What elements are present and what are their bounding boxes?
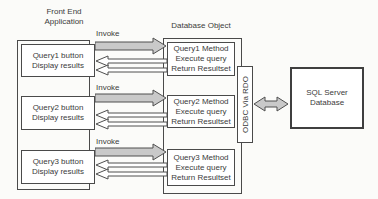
invoke-arrow-icon-2	[95, 89, 167, 107]
bidirectional-arrow-icon	[253, 94, 289, 114]
query1-method-line3: Return Resultset	[171, 64, 231, 74]
query3-button-line1: Query3 button	[33, 157, 84, 167]
query1-method-box: Query1 Method Execute query Return Resul…	[167, 42, 235, 76]
query2-method-line3: Return Resultset	[171, 117, 231, 127]
query2-method-line1: Query2 Method	[173, 97, 228, 107]
query2-method-box: Query2 Method Execute query Return Resul…	[167, 95, 235, 128]
query3-method-line2: Execute query	[175, 163, 226, 173]
odbc-connector-label: ODBC Via RDO	[241, 76, 250, 133]
query1-method-line2: Execute query	[175, 54, 226, 64]
query3-button-line2: Display results	[32, 167, 84, 177]
odbc-connector-box: ODBC Via RDO	[237, 66, 253, 143]
invoke-arrow-icon-1	[95, 37, 167, 55]
front-end-title-line2: Application	[29, 17, 99, 27]
query2-button-box: Query2 button Display results	[21, 96, 95, 130]
sql-server-box: SQL Server Database	[290, 67, 364, 129]
query3-method-line3: Return Resultset	[171, 173, 231, 183]
query1-method-line1: Query1 Method	[173, 44, 228, 54]
sql-server-line1: SQL Server	[306, 88, 348, 98]
return-arrow-icon-1b	[95, 64, 167, 76]
query3-method-box: Query3 Method Execute query Return Resul…	[167, 149, 235, 186]
query2-method-line2: Execute query	[175, 107, 226, 117]
sql-server-line2: Database	[310, 98, 344, 108]
query3-method-line1: Query3 Method	[173, 153, 228, 163]
diagram-canvas: Front End Application Database Object Qu…	[0, 0, 378, 199]
query2-button-line1: Query2 button	[33, 103, 84, 113]
query1-button-line2: Display results	[32, 61, 84, 71]
query1-button-line1: Query1 button	[33, 51, 84, 61]
return-arrow-icon-3b	[95, 168, 167, 180]
query2-button-line2: Display results	[32, 113, 84, 123]
query1-button-box: Query1 button Display results	[21, 44, 95, 77]
return-arrow-icon-2b	[95, 118, 167, 130]
database-object-title: Database Object	[160, 21, 242, 31]
front-end-title: Front End Application	[29, 7, 99, 27]
query3-button-box: Query3 button Display results	[21, 150, 95, 184]
front-end-title-line1: Front End	[29, 7, 99, 17]
